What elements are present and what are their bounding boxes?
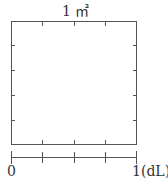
area-label: 1 ㎡ <box>62 4 89 18</box>
left-ticks <box>12 46 16 121</box>
unit-square <box>12 22 137 145</box>
scale-start-label: 0 <box>7 164 16 178</box>
top-ticks <box>43 22 106 27</box>
scale-end-label: 1(dL) <box>132 164 168 178</box>
bottom-ticks <box>43 140 106 145</box>
scale-unit: (dL) <box>141 163 168 179</box>
scale-end-value: 1 <box>132 163 141 179</box>
dl-scale <box>12 151 137 164</box>
right-ticks <box>133 46 137 121</box>
diagram-canvas <box>0 0 168 183</box>
